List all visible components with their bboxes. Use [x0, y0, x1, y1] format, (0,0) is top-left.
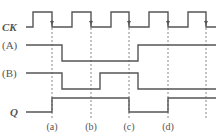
signal-labels: CK(A)(B)Q: [2, 21, 18, 118]
down-arrow-icon: [50, 21, 54, 25]
signal-label: (B): [2, 67, 17, 80]
time-mark-label: (a): [46, 121, 57, 133]
falling-edge-arrows: [50, 21, 208, 25]
down-arrow-icon: [204, 21, 208, 25]
waveform-q: [26, 98, 216, 112]
time-mark-labels: (a)(b)(c)(d): [46, 121, 173, 133]
down-arrow-icon: [127, 21, 131, 25]
signal-label: (A): [2, 39, 18, 52]
time-mark-label: (d): [162, 121, 174, 133]
down-arrow-icon: [89, 21, 93, 25]
time-mark-label: (c): [123, 121, 134, 133]
timing-diagram: CK(A)(B)Q (a)(b)(c)(d): [0, 0, 219, 134]
waveform-b: [26, 73, 216, 89]
signal-label: CK: [2, 21, 17, 33]
signal-label: Q: [10, 106, 18, 118]
down-arrow-icon: [166, 21, 170, 25]
waveform-ck: [26, 12, 216, 27]
time-mark-label: (b): [85, 121, 97, 133]
waveform-a: [26, 45, 216, 61]
signal-waveforms: [26, 12, 216, 112]
